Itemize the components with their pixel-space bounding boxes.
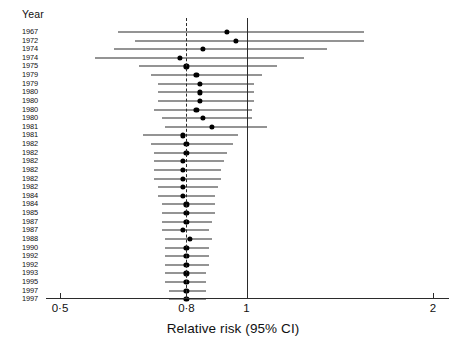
effect-estimate-marker xyxy=(187,236,192,241)
confidence-interval-line xyxy=(154,178,221,179)
year-label: 1974 xyxy=(22,54,38,61)
x-axis-tick-label: 0·5 xyxy=(52,302,69,314)
x-axis-title: Relative risk (95% CI) xyxy=(0,321,466,336)
effect-estimate-marker xyxy=(180,228,185,233)
effect-estimate-marker xyxy=(180,167,185,172)
year-label: 1980 xyxy=(22,114,38,121)
effect-estimate-marker xyxy=(180,193,185,198)
confidence-interval-line xyxy=(95,57,304,58)
effect-estimate-marker xyxy=(197,98,202,103)
effect-estimate-marker xyxy=(200,47,205,52)
effect-estimate-marker xyxy=(197,81,202,86)
confidence-interval-line xyxy=(151,75,263,76)
confidence-interval-line xyxy=(114,49,328,50)
year-label: 1967 xyxy=(22,28,38,35)
effect-estimate-marker xyxy=(177,55,182,60)
effect-estimate-marker xyxy=(233,38,238,43)
year-label: 1981 xyxy=(22,123,38,130)
year-label: 1987 xyxy=(22,227,38,234)
year-label: 1997 xyxy=(22,296,38,303)
year-label: 1995 xyxy=(22,278,38,285)
effect-estimate-marker xyxy=(224,29,229,34)
year-label: 1987 xyxy=(22,218,38,225)
x-axis-tick-label: 0·8 xyxy=(178,302,195,314)
null-effect-line xyxy=(247,18,248,298)
effect-estimate-marker xyxy=(197,90,202,95)
year-label: 1980 xyxy=(22,97,38,104)
confidence-interval-line xyxy=(158,100,254,101)
confidence-interval-line xyxy=(143,135,239,136)
effect-estimate-marker xyxy=(180,185,185,190)
effect-estimate-marker xyxy=(200,116,205,121)
year-label: 1982 xyxy=(22,158,38,165)
effect-estimate-marker xyxy=(180,176,185,181)
year-label: 1992 xyxy=(22,252,38,259)
year-label: 1985 xyxy=(22,209,38,216)
confidence-interval-line xyxy=(162,118,252,119)
confidence-interval-line xyxy=(154,109,251,110)
year-label: 1993 xyxy=(22,270,38,277)
x-axis-line xyxy=(46,298,449,299)
year-label: 1990 xyxy=(22,244,38,251)
x-axis-tick xyxy=(247,293,248,298)
confidence-interval-line xyxy=(139,66,277,67)
year-label: 1981 xyxy=(22,132,38,139)
pooled-estimate-line xyxy=(186,18,187,298)
year-label: 1974 xyxy=(22,46,38,53)
year-label: 1982 xyxy=(22,175,38,182)
year-label: 1988 xyxy=(22,235,38,242)
year-label: 1975 xyxy=(22,63,38,70)
forest-plot-figure: Year 19671972197419741975197919791980198… xyxy=(0,0,466,349)
confidence-interval-line xyxy=(158,92,254,93)
confidence-interval-line xyxy=(165,126,267,127)
x-axis-tick xyxy=(60,293,61,298)
x-axis-tick xyxy=(186,293,187,298)
effect-estimate-marker xyxy=(210,124,215,129)
x-axis-tick-label: 2 xyxy=(430,302,436,314)
year-label: 1984 xyxy=(22,201,38,208)
confidence-interval-line xyxy=(118,32,365,33)
x-axis-tick xyxy=(433,293,434,298)
year-label: 1982 xyxy=(22,166,38,173)
confidence-interval-line xyxy=(154,161,224,162)
confidence-interval-line xyxy=(151,144,233,145)
year-label: 1992 xyxy=(22,261,38,268)
effect-estimate-marker xyxy=(180,133,185,138)
year-label: 1980 xyxy=(22,106,38,113)
x-axis-tick-label: 1 xyxy=(243,302,249,314)
year-label: 1982 xyxy=(22,183,38,190)
year-label: 1972 xyxy=(22,37,38,44)
confidence-interval-line xyxy=(158,187,218,188)
year-label: 1979 xyxy=(22,71,38,78)
confidence-interval-line xyxy=(158,83,254,84)
year-label: 1980 xyxy=(22,89,38,96)
confidence-interval-line xyxy=(154,169,221,170)
confidence-interval-line xyxy=(154,152,227,153)
effect-estimate-marker xyxy=(194,73,199,78)
year-label: 1997 xyxy=(22,287,38,294)
year-label: 1982 xyxy=(22,149,38,156)
year-label: 1982 xyxy=(22,140,38,147)
year-label: 1979 xyxy=(22,80,38,87)
year-label: 1984 xyxy=(22,192,38,199)
year-column-header: Year xyxy=(22,8,44,20)
effect-estimate-marker xyxy=(194,107,199,112)
effect-estimate-marker xyxy=(180,159,185,164)
confidence-interval-line xyxy=(135,40,365,41)
